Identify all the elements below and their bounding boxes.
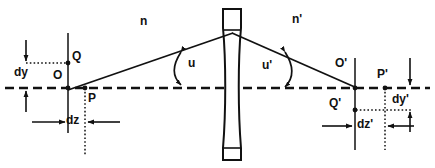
label-point-Q: Q (72, 50, 81, 62)
label-dimension-dz-prime: dz' (357, 118, 373, 130)
point-P-prime-dot (383, 86, 388, 91)
label-refractive-index-n-prime: n' (292, 13, 302, 25)
thin-biconvex-lens (223, 9, 241, 160)
label-point-Q-prime: Q' (329, 97, 341, 109)
label-point-O: O (53, 69, 62, 81)
point-Q-dot (66, 61, 71, 66)
optical-ray-diagram: n n' u u' O Q P O' Q' P' dy dz dy' dz' (0, 0, 435, 168)
angle-u-arc (174, 52, 181, 85)
label-refractive-index-n: n (140, 15, 147, 27)
label-point-P: P (88, 92, 96, 104)
label-point-O-prime: O' (335, 57, 347, 69)
label-angle-u-prime: u' (262, 59, 272, 71)
label-dimension-dy-prime: dy' (392, 93, 409, 105)
point-Q-prime-dot (353, 108, 358, 113)
label-angle-u: u (188, 57, 195, 69)
point-P-dot (83, 86, 88, 91)
object-ray (68, 33, 233, 90)
label-dimension-dz: dz (66, 114, 79, 126)
point-O-prime-dot (353, 86, 358, 91)
label-dimension-dy: dy (14, 66, 28, 78)
label-point-P-prime: P' (377, 68, 388, 80)
point-O-dot (66, 86, 71, 91)
diagram-canvas (0, 0, 435, 168)
